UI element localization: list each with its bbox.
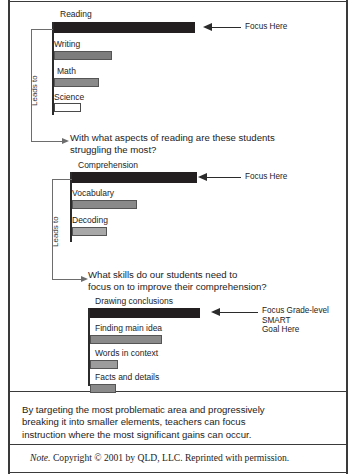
chart-subject-areas: Reading Writing Math Science [52,22,252,117]
chart2-callout-line [207,177,241,179]
bracket-one-top-seg [31,29,53,30]
question-comprehension-skills: What skills do our students need to focu… [88,269,338,293]
summary-text: By targeting the most problematic area a… [22,404,332,441]
chart1-bar-label-writing: Writing [54,39,80,49]
chart1-bar-label-reading: Reading [60,9,92,19]
chart1-bar-label-science: Science [54,92,84,102]
chart3-axis [88,308,90,386]
leads-to-label-one: Leads to [30,75,39,106]
bracket-two-bottom-seg [52,279,82,280]
frame-top-rule [8,1,348,2]
chart3-callout-line [220,312,258,314]
chart3-bar-label-words-in-context: Words in context [95,348,158,358]
chart1-bar-science [54,103,81,112]
chart3-bar-words-in-context [90,360,118,369]
summary-divider-rule [8,391,348,392]
bracket-two-top-seg [52,179,72,180]
chart2-bar-vocabulary [72,200,137,209]
leads-to-label-two: Leads to [51,216,60,247]
frame-bottom-rule [8,472,348,473]
chart2-bar-label-vocabulary: Vocabulary [72,188,114,198]
chart-reading-components: Comprehension Vocabulary Decoding [70,172,270,244]
chart2-callout-arrowhead [198,173,207,181]
chart3-bar-label-finding-main-idea: Finding main idea [95,323,162,333]
chart2-bar-decoding [72,227,107,236]
chart1-callout-arrowhead [203,23,212,31]
chart3-bar-label-drawing-conclusions: Drawing conclusions [95,296,173,306]
chart3-bar-finding-main-idea [90,335,162,344]
bracket-two-arrowhead [81,276,88,282]
chart2-bar-label-decoding: Decoding [72,215,108,225]
question-reading-aspects: With what aspects of reading are these s… [70,132,320,156]
chart1-callout-label: Focus Here [245,22,287,32]
chart1-bar-reading [54,22,195,33]
chart1-bar-label-math: Math [57,66,76,76]
chart3-callout-arrowhead [211,308,220,316]
copyright-note: Note. Copyright © 2001 by QLD, LLC. Repr… [30,452,350,463]
copyright-note-text: Copyright © 2001 by QLD, LLC. Reprinted … [51,452,290,463]
chart2-bar-label-comprehension: Comprehension [78,160,138,170]
chart-comprehension-skills: Drawing conclusions Finding main idea Wo… [88,308,288,388]
chart3-bar-facts-and-details [90,384,116,393]
chart3-callout-label: Focus Grade-level SMART Goal Here [262,306,329,335]
chart1-bar-writing [54,51,112,60]
chart1-bar-math [54,78,99,87]
chart2-bar-comprehension [72,172,197,183]
copyright-note-prefix: Note. [30,452,51,463]
chart1-callout-line [212,27,241,29]
note-divider-rule [8,444,348,445]
bracket-one-bottom-seg [31,141,63,142]
figure-container: Reading Writing Math Science Focus Here … [0,0,356,474]
bracket-one-arrowhead [62,138,69,144]
chart3-bar-drawing-conclusions [90,308,200,318]
chart3-bar-label-facts-and-details: Facts and details [95,372,159,382]
chart2-callout-label: Focus Here [245,172,287,182]
